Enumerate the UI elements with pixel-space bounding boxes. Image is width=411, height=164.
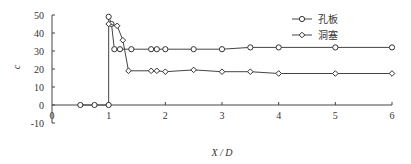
series-kongban bbox=[78, 14, 395, 107]
diamond-marker-icon bbox=[163, 69, 169, 75]
legend-label: 孔板 bbox=[318, 13, 338, 25]
x-tick-label: 3 bbox=[220, 110, 225, 121]
legend-label: 洞塞 bbox=[318, 29, 338, 41]
line-chart: -10010203040500123456 孔板洞塞 X / D c bbox=[0, 0, 411, 164]
circle-marker-icon bbox=[78, 102, 83, 107]
diamond-marker-icon bbox=[120, 37, 126, 43]
circle-marker-icon bbox=[106, 102, 111, 107]
diamond-marker-icon bbox=[191, 67, 197, 73]
diamond-marker-icon bbox=[126, 68, 132, 74]
x-tick-label: 0 bbox=[50, 110, 55, 121]
circle-marker-icon bbox=[149, 47, 154, 52]
circle-marker-icon bbox=[92, 102, 97, 107]
y-tick-label: 20 bbox=[34, 64, 44, 75]
diamond-marker-icon bbox=[299, 32, 305, 38]
circle-marker-icon bbox=[219, 47, 224, 52]
y-tick-label: 0 bbox=[39, 100, 44, 111]
diamond-marker-icon bbox=[389, 71, 395, 77]
legend-item: 孔板 bbox=[292, 13, 338, 25]
circle-marker-icon bbox=[112, 47, 117, 52]
diamond-marker-icon bbox=[154, 68, 160, 74]
circle-marker-icon bbox=[163, 47, 168, 52]
diamond-marker-icon bbox=[248, 69, 254, 75]
y-tick-label: 30 bbox=[34, 46, 44, 57]
diamond-marker-icon bbox=[276, 71, 282, 77]
diamond-marker-icon bbox=[148, 68, 154, 74]
x-tick-label: 5 bbox=[333, 110, 338, 121]
circle-marker-icon bbox=[117, 47, 122, 52]
circle-marker-icon bbox=[106, 14, 111, 19]
diamond-marker-icon bbox=[114, 23, 120, 29]
y-tick-label: 50 bbox=[34, 10, 44, 21]
series-layer bbox=[78, 14, 395, 107]
x-tick-label: 6 bbox=[390, 110, 395, 121]
x-tick-label: 2 bbox=[163, 110, 168, 121]
circle-marker-icon bbox=[248, 45, 253, 50]
x-tick-label: 4 bbox=[276, 110, 281, 121]
circle-marker-icon bbox=[191, 47, 196, 52]
diamond-marker-icon bbox=[333, 71, 339, 77]
circle-marker-icon bbox=[129, 47, 134, 52]
y-tick-label: -10 bbox=[31, 118, 44, 129]
x-tick-label: 1 bbox=[106, 110, 111, 121]
y-tick-label: 40 bbox=[34, 28, 44, 39]
legend: 孔板洞塞 bbox=[292, 13, 338, 41]
axes: -10010203040500123456 bbox=[31, 10, 395, 129]
y-tick-label: 10 bbox=[34, 82, 44, 93]
circle-marker-icon bbox=[333, 45, 338, 50]
circle-marker-icon bbox=[276, 45, 281, 50]
legend-item: 洞塞 bbox=[292, 29, 338, 41]
y-axis-label: c bbox=[11, 64, 22, 69]
diamond-marker-icon bbox=[219, 69, 225, 75]
circle-marker-icon bbox=[154, 47, 159, 52]
x-axis-label: X / D bbox=[210, 147, 233, 158]
circle-marker-icon bbox=[299, 16, 304, 21]
circle-marker-icon bbox=[389, 45, 394, 50]
